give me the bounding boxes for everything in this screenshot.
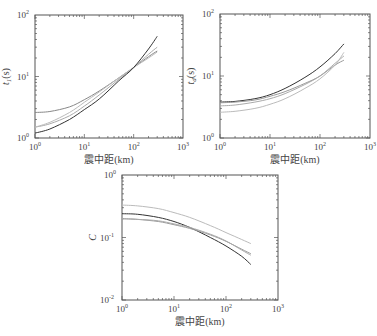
data-series-curve-2	[220, 60, 344, 103]
y-tick-label: 102	[202, 8, 214, 19]
x-axis-label: 震中距(km)	[84, 153, 133, 166]
data-series-curve-2	[35, 47, 157, 127]
x-tick-label: 103	[364, 141, 376, 152]
axes-frame	[35, 15, 183, 138]
y-tick-label: 100	[202, 132, 214, 143]
plot-td-vs-distance: 100101102103100101102震中距(km)td(s)	[185, 8, 376, 166]
x-tick-label: 102	[128, 141, 140, 152]
data-series-curve-4	[220, 52, 344, 112]
data-series-curve-1	[220, 44, 344, 102]
axes-frame	[122, 175, 278, 300]
x-tick-label: 100	[116, 303, 128, 314]
data-series-curve-2	[122, 214, 251, 265]
y-axis-label: C	[87, 234, 98, 241]
x-tick-label: 103	[177, 141, 189, 152]
plot-t1-vs-distance: 100101102103100101102震中距(km)t1(s)	[0, 9, 189, 166]
plot-c-vs-distance: 10010110210310-210-1100震中距(km)C	[87, 169, 284, 328]
y-tick-label: 101	[202, 70, 214, 81]
data-series-curve-1	[122, 205, 251, 244]
x-tick-label: 102	[314, 141, 326, 152]
data-series-curve-3	[122, 219, 251, 254]
y-tick-label: 100	[17, 132, 29, 143]
data-series-curve-3	[220, 56, 344, 106]
y-tick-label: 100	[104, 169, 116, 180]
y-tick-label: 10-1	[100, 232, 114, 243]
x-tick-label: 100	[29, 141, 41, 152]
x-tick-label: 103	[272, 303, 284, 314]
chart-figure: 100101102103100101102震中距(km)t1(s) 100101…	[0, 0, 377, 336]
x-tick-label: 101	[168, 303, 180, 314]
y-axis-label: td(s)	[185, 68, 198, 85]
y-tick-label: 102	[17, 9, 29, 20]
x-tick-label: 100	[214, 141, 226, 152]
x-axis-label: 震中距(km)	[270, 153, 319, 166]
data-series-curve-4	[35, 36, 157, 133]
x-tick-label: 102	[220, 303, 232, 314]
y-axis-label: t1(s)	[0, 68, 13, 85]
data-series-curve-1	[35, 51, 157, 113]
x-axis-label: 震中距(km)	[175, 315, 224, 328]
x-tick-label: 101	[78, 141, 90, 152]
x-tick-label: 101	[264, 141, 276, 152]
y-tick-label: 10-2	[100, 294, 114, 305]
axes-frame	[220, 14, 370, 138]
y-tick-label: 101	[17, 71, 29, 82]
